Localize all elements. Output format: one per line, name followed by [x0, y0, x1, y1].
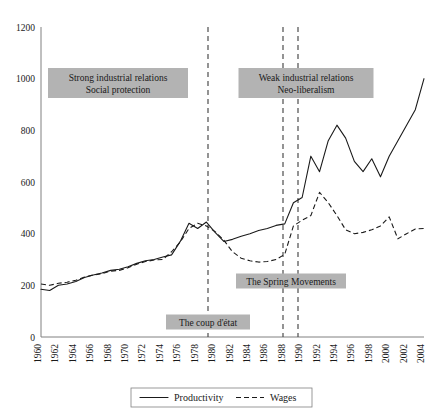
annotation-label: The Spring Movements: [246, 277, 336, 287]
x-axis-tick-label: 1960: [33, 344, 43, 363]
x-axis: 1960196219641966196819701972197419761978…: [33, 337, 426, 363]
y-axis-tick-label: 400: [21, 229, 36, 239]
y-axis-tick-label: 800: [21, 126, 36, 136]
y-axis-tick-label: 200: [21, 281, 36, 291]
y-axis-tick-label: 1000: [16, 74, 35, 84]
data-series: [41, 79, 424, 291]
x-axis-tick-label: 1974: [155, 344, 165, 363]
y-axis-tick-label: 0: [30, 333, 35, 343]
x-axis-tick-label: 1972: [137, 344, 147, 363]
x-axis-tick-label: 2004: [416, 344, 426, 363]
legend-label-productivity: Productivity: [174, 392, 223, 403]
x-axis-tick-label: 1998: [364, 344, 374, 363]
x-axis-tick-label: 1992: [312, 344, 322, 363]
x-axis-tick-label: 1996: [346, 344, 356, 363]
x-axis-tick-label: 2002: [399, 344, 409, 363]
y-axis-tick-label: 600: [21, 178, 36, 188]
x-axis-tick-label: 1980: [207, 344, 217, 363]
y-axis-tick-label: 1200: [16, 23, 35, 33]
line-chart: 020040060080010001200 196019621964196619…: [0, 0, 438, 420]
annotation-coup-detat: The coup d'état: [166, 315, 250, 330]
x-axis-tick-label: 1964: [68, 344, 78, 363]
annotation-label: Social protection: [86, 85, 151, 95]
x-axis-tick-label: 1970: [120, 344, 130, 363]
y-axis: 020040060080010001200: [16, 23, 41, 343]
annotation-label: Neo-liberalism: [278, 85, 336, 95]
x-axis-tick-label: 2000: [381, 344, 391, 363]
annotation-label: The coup d'état: [179, 318, 238, 328]
x-axis-tick-label: 1982: [225, 344, 235, 363]
annotation-label: Strong industrial relations: [69, 73, 168, 83]
annotation-spring-movements: The Spring Movements: [236, 274, 346, 289]
x-axis-tick-label: 1984: [242, 344, 252, 363]
x-axis-tick-label: 1968: [103, 344, 113, 363]
x-axis-tick-label: 1962: [50, 344, 60, 363]
series-line-productivity: [41, 79, 424, 291]
annotation-label: Weak industrial relations: [259, 73, 354, 83]
x-axis-tick-label: 1966: [85, 344, 95, 363]
legend-label-wages: Wages: [270, 392, 297, 403]
chart-legend: ProductivityWages: [131, 388, 312, 407]
annotation-weak-industrial-relations: Weak industrial relationsNeo-liberalism: [239, 68, 374, 98]
x-axis-tick-label: 1986: [259, 344, 269, 363]
x-axis-tick-label: 1976: [172, 344, 182, 363]
annotation-strong-industrial-relations: Strong industrial relationsSocial protec…: [48, 68, 188, 98]
chart-figure: 020040060080010001200 196019621964196619…: [0, 0, 438, 420]
x-axis-tick-label: 1988: [277, 344, 287, 363]
x-axis-tick-label: 1994: [329, 344, 339, 363]
x-axis-tick-label: 1990: [294, 344, 304, 363]
x-axis-tick-label: 1978: [190, 344, 200, 363]
